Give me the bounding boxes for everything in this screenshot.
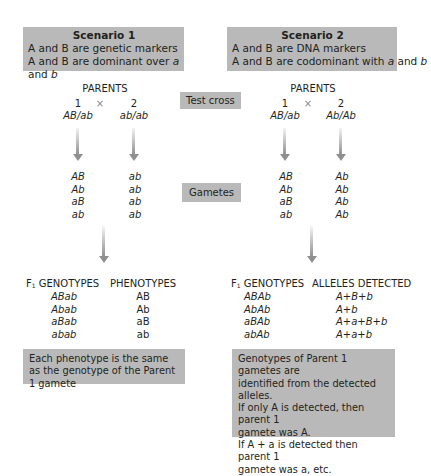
left-f1-genotypes-header: F1 GENOTYPES [26, 278, 99, 292]
right-parent2-genotype: Ab/Ab [321, 110, 361, 122]
left-note-box: Each phenotype is the same as the genoty… [23, 349, 185, 384]
left-parent1-number: 1 [68, 98, 88, 110]
scenario-2-line2: A and B are codominant with a and b [232, 55, 393, 68]
arrow-down-icon [283, 128, 287, 162]
gametes-label: Gametes [182, 183, 241, 202]
right-parents-label: PARENTS [278, 83, 348, 95]
scenario-1-line2: A and B are dominant over a and b [28, 55, 180, 81]
right-note-line: Genotypes of Parent 1 gametes are [238, 353, 389, 378]
left-gametes-parent2: ab ab ab ab [120, 171, 150, 221]
right-alleles-detected-header: ALLELES DETECTED [312, 278, 411, 290]
right-note-line: If only A is detected, then parent 1 [238, 402, 389, 427]
right-note-line: identified from the detected alleles. [238, 378, 389, 403]
right-gametes-parent2: Ab Ab Ab Ab [327, 171, 357, 221]
scenario-2-box: Scenario 2 A and B are DNA markers A and… [227, 27, 397, 71]
left-cross-symbol: × [93, 98, 107, 110]
arrow-down-icon [76, 128, 80, 162]
left-phenotypes-list: AB Ab aB ab [128, 291, 158, 341]
left-parent2-number: 2 [124, 98, 144, 110]
left-note-text: Each phenotype is the same as the genoty… [29, 353, 179, 390]
right-parent2-number: 2 [331, 98, 351, 110]
scenario-2-line1: A and B are DNA markers [232, 42, 393, 55]
right-gametes-parent1: AB Ab aB ab [271, 171, 301, 221]
right-note-line: gamete was a, etc. [238, 464, 389, 476]
left-f1-genotypes-list: ABab Abab aBab abab [44, 291, 84, 341]
left-parent1-genotype: AB/ab [58, 110, 98, 122]
right-parent1-genotype: AB/ab [265, 110, 305, 122]
right-note-line: gamete was A. [238, 427, 389, 439]
right-f1-genotypes-header: F1 GENOTYPES [231, 278, 304, 292]
left-parent2-genotype: ab/ab [114, 110, 154, 122]
right-note-box: Genotypes of Parent 1 gametes are identi… [232, 349, 395, 437]
right-parent1-number: 1 [275, 98, 295, 110]
scenario-2-title: Scenario 2 [232, 29, 393, 42]
arrow-down-icon [102, 226, 106, 264]
right-alleles-detected-list: A+B+b A+b A+a+B+b A+a+b [336, 291, 406, 341]
arrow-down-icon [339, 128, 343, 162]
right-f1-genotypes-list: ABAb AbAb aBAb abAb [240, 291, 284, 341]
arrow-down-icon [132, 128, 136, 162]
scenario-1-box: Scenario 1 A and B are genetic markers A… [23, 27, 184, 71]
scenario-1-line1: A and B are genetic markers [28, 42, 180, 55]
left-gametes-parent1: AB Ab aB ab [63, 171, 93, 221]
right-cross-symbol: × [301, 98, 315, 110]
right-note-line: If A + a is detected then parent 1 [238, 439, 389, 464]
left-parents-label: PARENTS [70, 83, 140, 95]
left-phenotypes-header: PHENOTYPES [110, 278, 176, 290]
test-cross-label: Test cross [180, 92, 241, 109]
scenario-1-title: Scenario 1 [28, 29, 180, 42]
arrow-down-icon [310, 226, 314, 264]
